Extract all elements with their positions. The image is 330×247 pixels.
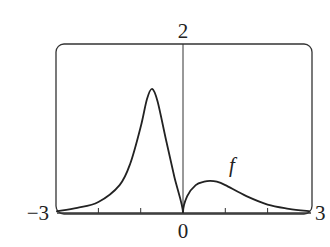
x-max-label: 3 [315, 201, 326, 225]
y-max-label: 2 [178, 19, 189, 43]
series-label-f: f [229, 153, 238, 177]
chart-canvas: 2 −3 3 0 f [0, 0, 330, 247]
x-min-label: −3 [27, 201, 49, 225]
x-zero-label: 0 [178, 219, 189, 243]
plot-frame [56, 44, 312, 214]
